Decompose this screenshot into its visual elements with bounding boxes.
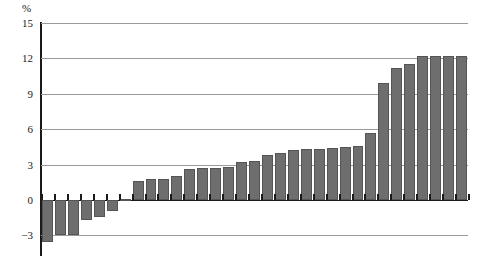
x-tick [326,194,328,200]
bar [314,149,325,200]
x-tick [442,194,444,200]
bar-series [41,0,468,261]
chart-screenshot: % −303691215 [0,0,486,261]
x-tick [300,194,302,200]
x-tick [106,194,108,200]
x-tick [209,194,211,200]
y-tick-label-15: 15 [22,17,33,29]
x-tick [41,194,43,200]
x-tick [313,194,315,200]
bar [210,168,221,200]
x-tick [157,194,159,200]
bar [417,56,428,200]
bar [430,56,441,200]
bar [456,56,467,200]
bar [353,146,364,200]
bar [262,155,273,200]
x-tick [274,194,276,200]
bar [197,168,208,200]
x-tick [455,194,457,200]
y-tick-label-0: 0 [28,194,34,206]
x-tick [145,194,147,200]
bar [120,199,131,201]
bar [171,176,182,200]
y-tick-label-3: 3 [28,159,34,171]
bar [236,162,247,200]
x-tick [80,194,82,200]
x-tick [429,194,431,200]
x-tick [235,194,237,200]
x-tick [222,194,224,200]
bar [68,200,79,235]
x-tick [132,194,134,200]
bar [94,200,105,217]
bar [107,200,118,211]
x-tick [287,194,289,200]
x-tick [183,194,185,200]
bar [301,149,312,200]
x-tick [67,194,69,200]
y-tick-label--3: −3 [21,229,33,241]
bar [42,200,53,242]
x-tick [390,194,392,200]
bar [146,179,157,200]
x-tick [93,194,95,200]
y-tick-label-12: 12 [22,52,33,64]
x-tick [248,194,250,200]
y-tick-label-9: 9 [28,88,34,100]
bar [288,150,299,200]
x-tick [54,194,56,200]
x-tick [468,194,470,200]
bar [249,161,260,200]
y-tick-label-6: 6 [28,123,34,135]
bar [55,200,66,235]
bar [365,133,376,200]
bar [158,179,169,200]
x-tick [196,194,198,200]
x-tick [403,194,405,200]
bar [404,64,415,200]
bar [327,148,338,200]
x-tick [352,194,354,200]
bar [184,169,195,200]
x-tick [170,194,172,200]
bar [340,147,351,200]
x-tick [377,194,379,200]
y-axis-tick-labels: −303691215 [0,0,33,261]
bar [378,83,389,200]
bar [391,68,402,200]
x-tick [416,194,418,200]
x-tick [119,194,121,200]
x-tick [261,194,263,200]
bar [443,56,454,200]
bar [81,200,92,220]
x-tick [364,194,366,200]
bar [133,181,144,200]
bar [275,153,286,200]
x-tick [339,194,341,200]
bar [223,167,234,200]
